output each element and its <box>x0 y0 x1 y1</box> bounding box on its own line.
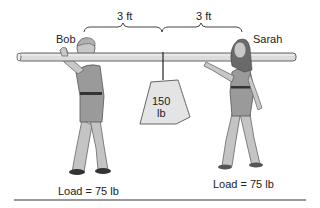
sarah-label: Sarah <box>253 33 282 45</box>
weight-unit: lb <box>157 107 166 119</box>
bob-load-label: Load = 75 lb <box>58 185 119 197</box>
distance-brace-right <box>162 23 242 32</box>
bob-hand <box>60 47 68 56</box>
sarah-load-label: Load = 75 lb <box>213 178 274 190</box>
distance-brace-left <box>84 23 162 32</box>
pole <box>17 53 296 61</box>
weight-value: 150 <box>152 95 170 107</box>
left-distance-label: 3 ft <box>117 10 132 22</box>
bob-label: Bob <box>56 33 76 45</box>
right-distance-label: 3 ft <box>196 10 211 22</box>
